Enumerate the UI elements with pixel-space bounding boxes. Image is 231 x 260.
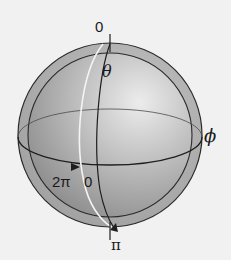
sphere-graphic bbox=[0, 0, 231, 260]
phi-symbol-label: ϕ bbox=[204, 127, 216, 145]
theta-end-label: π bbox=[111, 238, 121, 253]
theta-symbol-label: θ bbox=[102, 64, 112, 80]
sphere-diagram: 0 θ ϕ 2π 0 π bbox=[0, 0, 231, 260]
phi-start-label: 0 bbox=[84, 174, 92, 189]
theta-start-label: 0 bbox=[95, 19, 103, 34]
phi-end-label: 2π bbox=[52, 174, 71, 189]
